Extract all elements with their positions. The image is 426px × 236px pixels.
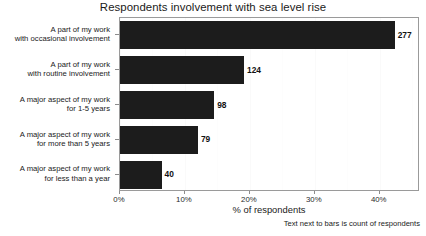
y-axis-label-line: for less than a year xyxy=(0,174,110,183)
bar-value-label: 98 xyxy=(217,101,226,110)
bar[interactable] xyxy=(120,126,198,154)
bar-value-label: 124 xyxy=(247,66,261,75)
plot-panel: 277124987940 xyxy=(119,17,419,191)
x-axis-ticks: 0%10%20%30%40% xyxy=(119,191,419,205)
x-axis-tick-label: 0% xyxy=(113,195,124,204)
bar-value-label: 40 xyxy=(165,170,174,179)
chart-caption: Text next to bars is count of respondent… xyxy=(284,219,420,228)
x-axis-tick-mark xyxy=(314,191,315,194)
y-axis-label-line: with routine involvement xyxy=(0,69,110,78)
bar[interactable] xyxy=(120,56,244,84)
bars-layer: 277124987940 xyxy=(120,18,418,190)
chart-title: Respondents involvement with sea level r… xyxy=(0,1,426,14)
x-axis-tick-mark xyxy=(249,191,250,194)
bar-value-label: 79 xyxy=(201,135,210,144)
y-axis-label-line: A part of my work xyxy=(0,60,110,69)
bar-chart: Respondents involvement with sea level r… xyxy=(0,0,426,236)
bar-row: 124 xyxy=(120,56,418,84)
y-axis-label-line: A part of my work xyxy=(0,25,110,34)
y-axis-label: A part of my workwith routine involvemen… xyxy=(0,60,110,78)
x-axis-title: % of respondents xyxy=(119,204,419,215)
bar[interactable] xyxy=(120,161,162,189)
y-axis-label: A major aspect of my workfor more than 5… xyxy=(0,130,110,148)
x-axis-tick-mark xyxy=(184,191,185,194)
y-axis-label-line: for more than 5 years xyxy=(0,139,110,148)
y-axis-labels: A part of my workwith occasional involve… xyxy=(0,17,115,191)
bar[interactable] xyxy=(120,91,214,119)
y-axis-label: A major aspect of my workfor less than a… xyxy=(0,164,110,182)
y-axis-label-line: A major aspect of my work xyxy=(0,130,110,139)
bar-row: 40 xyxy=(120,161,418,189)
y-axis-label-line: with occasional involvement xyxy=(0,34,110,43)
x-axis-tick-label: 30% xyxy=(306,195,322,204)
y-axis-label: A part of my workwith occasional involve… xyxy=(0,25,110,43)
bar-row: 79 xyxy=(120,126,418,154)
bar-row: 277 xyxy=(120,21,418,49)
y-axis-label: A major aspect of my workfor 1-5 years xyxy=(0,95,110,113)
x-axis-tick-label: 20% xyxy=(241,195,257,204)
x-axis-tick-label: 40% xyxy=(371,195,387,204)
x-axis-tick-mark xyxy=(379,191,380,194)
y-axis-label-line: for 1-5 years xyxy=(0,104,110,113)
bar-row: 98 xyxy=(120,91,418,119)
bar-value-label: 277 xyxy=(398,31,412,40)
x-axis-tick-label: 10% xyxy=(176,195,192,204)
y-axis-label-line: A major aspect of my work xyxy=(0,95,110,104)
bar[interactable] xyxy=(120,21,395,49)
x-axis-tick-mark xyxy=(119,191,120,194)
y-axis-label-line: A major aspect of my work xyxy=(0,164,110,173)
